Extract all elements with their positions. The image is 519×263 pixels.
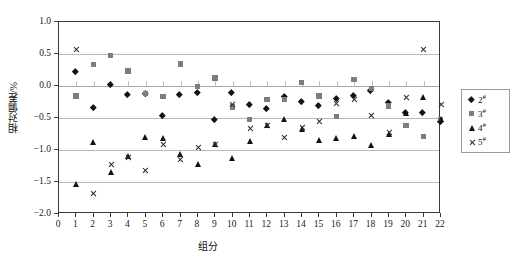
legend-item-superscript: #	[483, 135, 487, 143]
cross-marker-icon	[466, 136, 478, 148]
triangle-marker-icon	[466, 122, 478, 134]
chart-figure: 相对偏差/% 1.00.50.0−0.5−1.0−1.5−2.001234567…	[0, 0, 519, 263]
y-tick-label: −0.5	[34, 112, 51, 122]
y-axis-label: 相对偏差/%	[6, 82, 21, 133]
y-tick-mark	[54, 85, 58, 86]
x-tick-mark	[232, 213, 233, 217]
x-tick-mark	[353, 213, 354, 217]
x-tick-inner	[76, 81, 77, 86]
x-tick-inner	[94, 81, 95, 86]
x-tick-mark	[318, 213, 319, 217]
y-tick-label: −2.0	[34, 208, 51, 218]
x-tick-inner	[285, 81, 286, 86]
x-tick-inner	[337, 81, 338, 86]
y-tick-label: −1.0	[34, 144, 51, 154]
x-tick-mark	[440, 213, 441, 217]
x-axis-label: 组分	[0, 238, 519, 253]
x-tick-label: 22	[430, 219, 450, 229]
x-tick-mark	[388, 213, 389, 217]
legend-item-5hash[interactable]: 5#	[466, 135, 506, 149]
x-tick-inner	[389, 81, 390, 86]
legend-item-label: 2#	[478, 95, 486, 106]
legend-item-label: 5#	[478, 137, 486, 148]
y-tick-mark	[54, 181, 58, 182]
x-tick-mark	[214, 213, 215, 217]
legend-item-label: 4#	[478, 123, 486, 134]
legend-item-superscript: #	[483, 121, 487, 129]
x-tick-mark	[371, 213, 372, 217]
x-tick-mark	[284, 213, 285, 217]
y-tick-label: 0.5	[39, 48, 51, 58]
y-tick-mark	[54, 149, 58, 150]
x-tick-inner	[250, 81, 251, 86]
y-tick-mark	[54, 21, 58, 22]
x-tick-mark	[180, 213, 181, 217]
x-tick-inner	[319, 81, 320, 86]
x-tick-mark	[197, 213, 198, 217]
x-tick-mark	[93, 213, 94, 217]
x-tick-inner	[163, 81, 164, 86]
y-tick-mark	[54, 53, 58, 54]
legend-item-4hash[interactable]: 4#	[466, 121, 506, 135]
x-tick-mark	[249, 213, 250, 217]
x-tick-mark	[423, 213, 424, 217]
x-tick-mark	[145, 213, 146, 217]
legend-item-3hash[interactable]: 3#	[466, 107, 506, 121]
legend-item-label: 3#	[478, 109, 486, 120]
x-tick-mark	[75, 213, 76, 217]
legend-item-superscript: #	[483, 93, 487, 101]
x-tick-mark	[266, 213, 267, 217]
plot-area	[58, 21, 440, 213]
x-tick-inner	[181, 81, 182, 86]
x-tick-inner	[233, 81, 234, 86]
legend-item-2hash[interactable]: 2#	[466, 93, 506, 107]
chart-legend: 2#3#4#5#	[461, 89, 510, 153]
y-tick-label: −1.5	[34, 176, 51, 186]
legend-item-superscript: #	[483, 107, 487, 115]
x-tick-mark	[336, 213, 337, 217]
x-tick-inner	[146, 81, 147, 86]
x-axis-label-text: 组分	[198, 241, 218, 252]
x-tick-inner	[406, 81, 407, 86]
x-tick-mark	[405, 213, 406, 217]
x-tick-mark	[127, 213, 128, 217]
x-tick-mark	[58, 213, 59, 217]
gridline-y	[59, 182, 439, 183]
y-tick-mark	[54, 117, 58, 118]
gridline-y	[59, 150, 439, 151]
square-marker-icon	[466, 108, 478, 120]
x-tick-mark	[110, 213, 111, 217]
y-tick-label: 0.0	[39, 80, 51, 90]
x-tick-mark	[301, 213, 302, 217]
x-tick-inner	[215, 81, 216, 86]
x-tick-inner	[267, 81, 268, 86]
x-tick-inner	[424, 81, 425, 86]
x-tick-mark	[162, 213, 163, 217]
gridline-y	[59, 86, 439, 87]
y-tick-label: 1.0	[39, 16, 51, 26]
x-tick-inner	[128, 81, 129, 86]
diamond-marker-icon	[466, 94, 478, 106]
gridline-y	[59, 54, 439, 55]
